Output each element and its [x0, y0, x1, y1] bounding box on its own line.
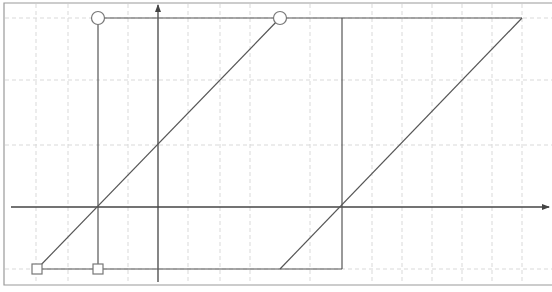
square-bottom-left-icon — [32, 264, 42, 274]
circle-top-middle-icon — [274, 12, 287, 25]
hysteresis-diagram — [0, 0, 552, 292]
loop-segments — [37, 18, 522, 269]
axes — [11, 5, 549, 282]
diagram-svg — [0, 0, 552, 292]
segment-ascending-right-diagonal — [280, 18, 522, 269]
frame-border — [4, 3, 552, 285]
square-bottom-middle-icon — [93, 264, 103, 274]
circle-top-left-icon — [92, 12, 105, 25]
diagram-frame — [4, 3, 552, 285]
grid-lines — [5, 4, 552, 284]
